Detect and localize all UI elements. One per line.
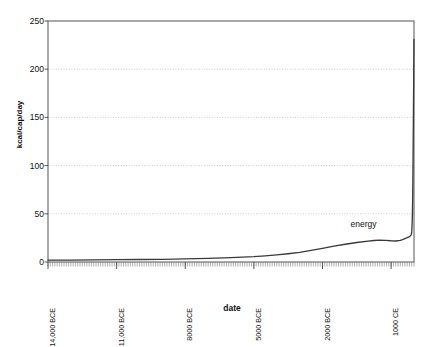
x-axis-title: date [0, 303, 436, 313]
series-annotation-energy: energy [351, 219, 377, 229]
